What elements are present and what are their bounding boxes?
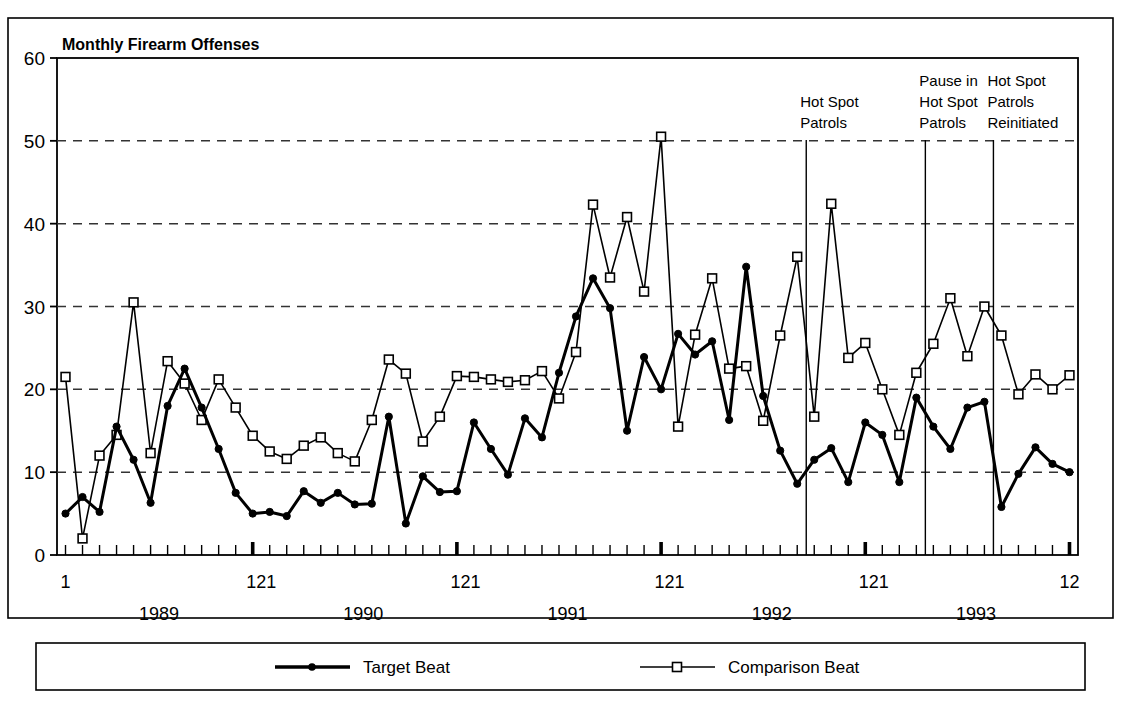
- data-point-marker: [657, 386, 664, 393]
- data-point-marker: [521, 376, 530, 385]
- data-point-marker: [317, 499, 324, 506]
- figure-container: Monthly Firearm Offenses 0102030405060 1…: [0, 0, 1121, 715]
- data-point-marker: [862, 419, 869, 426]
- data-point-marker: [299, 441, 308, 450]
- x-tick-label: 12: [1059, 572, 1079, 592]
- x-tick-label: 121: [655, 572, 685, 592]
- data-point-marker: [963, 352, 972, 361]
- data-point-marker: [811, 456, 818, 463]
- annotation-label-line: Hot Spot: [919, 93, 978, 110]
- data-point-marker: [78, 534, 87, 543]
- data-point-marker: [334, 489, 341, 496]
- x-axis-tick-labels: 112112112112112: [61, 572, 1080, 592]
- y-axis-ticks: 0102030405060: [24, 48, 57, 566]
- data-point-marker: [402, 520, 409, 527]
- data-point-marker: [827, 199, 836, 208]
- chart-title: Monthly Firearm Offenses: [62, 36, 259, 53]
- data-point-marker: [538, 434, 545, 441]
- data-point-marker: [692, 351, 699, 358]
- data-point-marker: [146, 449, 155, 458]
- data-point-marker: [912, 368, 921, 377]
- data-point-marker: [879, 431, 886, 438]
- data-point-marker: [896, 479, 903, 486]
- data-point-marker: [675, 330, 682, 337]
- y-tick-label: 40: [24, 214, 45, 235]
- data-point-marker: [435, 412, 444, 421]
- data-point-marker: [589, 275, 596, 282]
- data-point-marker: [572, 348, 581, 357]
- x-tick-label: 1: [61, 572, 71, 592]
- legend-marker-open-square-icon: [673, 663, 682, 672]
- data-point-marker: [555, 394, 564, 403]
- annotation-label-line: Reinitiated: [987, 114, 1058, 131]
- data-point-marker: [1049, 460, 1056, 467]
- data-point-marker: [1032, 444, 1039, 451]
- data-point-marker: [401, 369, 410, 378]
- data-point-marker: [844, 353, 853, 362]
- data-point-marker: [1014, 390, 1023, 399]
- data-point-marker: [350, 457, 359, 466]
- legend-box: [36, 643, 1085, 690]
- data-point-marker: [997, 331, 1006, 340]
- data-point-marker: [521, 415, 528, 422]
- x-axis-year-labels: 19891990199119921993: [139, 604, 996, 624]
- data-point-marker: [316, 433, 325, 442]
- data-point-marker: [998, 503, 1005, 510]
- data-point-marker: [231, 403, 240, 412]
- data-point-marker: [538, 367, 547, 376]
- data-point-marker: [62, 510, 69, 517]
- data-point-marker: [164, 402, 171, 409]
- data-point-marker: [181, 365, 188, 372]
- data-point-marker: [419, 473, 426, 480]
- legend-label: Target Beat: [363, 658, 450, 677]
- y-tick-label: 0: [34, 545, 45, 566]
- data-point-marker: [385, 413, 392, 420]
- data-point-marker: [828, 445, 835, 452]
- year-label: 1993: [956, 604, 996, 624]
- series-comparison-beat: [61, 132, 1074, 543]
- annotation-label-line: Hot Spot: [800, 93, 859, 110]
- data-point-marker: [367, 416, 376, 425]
- data-point-marker: [96, 508, 103, 515]
- data-point-marker: [623, 427, 630, 434]
- legend-marker-filled-circle-icon: [308, 663, 316, 671]
- data-point-marker: [555, 369, 562, 376]
- data-point-marker: [384, 355, 393, 364]
- data-point-marker: [946, 294, 955, 303]
- data-point-marker: [232, 489, 239, 496]
- data-point-marker: [759, 416, 768, 425]
- data-point-marker: [1031, 370, 1040, 379]
- annotation-label-line: Patrols: [987, 93, 1034, 110]
- data-point-marker: [147, 499, 154, 506]
- data-point-marker: [163, 357, 172, 366]
- data-point-marker: [606, 305, 613, 312]
- data-point-marker: [453, 488, 460, 495]
- data-point-marker: [708, 274, 717, 283]
- data-point-marker: [674, 422, 683, 431]
- data-point-marker: [743, 263, 750, 270]
- data-point-marker: [980, 302, 989, 311]
- data-point-marker: [487, 375, 496, 384]
- data-point-marker: [726, 416, 733, 423]
- data-point-marker: [981, 398, 988, 405]
- data-point-marker: [113, 423, 120, 430]
- data-point-marker: [947, 445, 954, 452]
- x-tick-label: 121: [246, 572, 276, 592]
- data-point-marker: [95, 451, 104, 460]
- data-point-marker: [929, 339, 938, 348]
- data-point-marker: [1048, 385, 1057, 394]
- data-point-marker: [861, 339, 870, 348]
- x-tick-label: 121: [450, 572, 480, 592]
- data-point-marker: [129, 298, 138, 307]
- data-point-marker: [79, 493, 86, 500]
- year-label: 1992: [752, 604, 792, 624]
- data-point-marker: [504, 377, 513, 386]
- y-tick-label: 60: [24, 48, 45, 69]
- data-point-marker: [248, 431, 257, 440]
- data-point-marker: [760, 392, 767, 399]
- data-point-marker: [640, 353, 647, 360]
- data-point-marker: [452, 372, 461, 381]
- x-tick-label: 121: [859, 572, 889, 592]
- data-point-marker: [895, 430, 904, 439]
- data-point-marker: [249, 510, 256, 517]
